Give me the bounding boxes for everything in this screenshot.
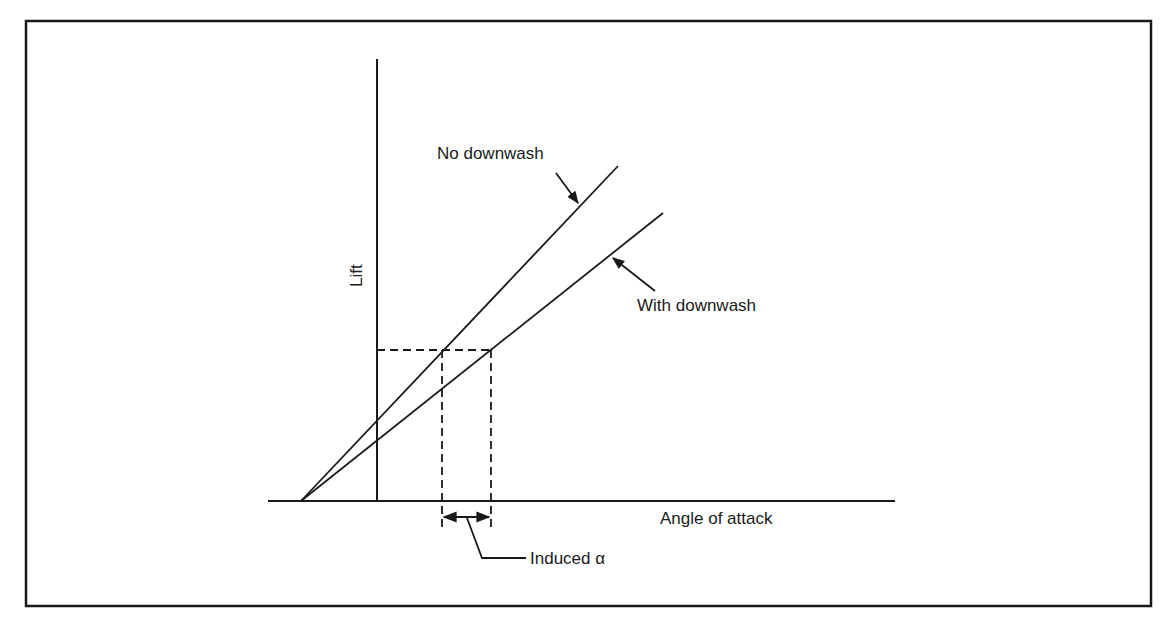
with-downwash-line bbox=[301, 213, 663, 501]
induced-alpha-leader-line bbox=[467, 518, 526, 558]
induced-alpha-label: Induced α bbox=[530, 549, 605, 568]
no-downwash-pointer-arrow bbox=[556, 173, 578, 203]
no-downwash-line bbox=[301, 166, 618, 501]
with-downwash-label: With downwash bbox=[637, 296, 756, 315]
with-downwash-pointer-arrow bbox=[613, 258, 655, 291]
induced-angle-diagram: Lift Angle of attack No downwash With do… bbox=[0, 0, 1164, 625]
y-axis-label: Lift bbox=[347, 264, 366, 287]
no-downwash-label: No downwash bbox=[437, 144, 544, 163]
x-axis-label: Angle of attack bbox=[660, 509, 773, 528]
figure-frame bbox=[26, 21, 1151, 606]
